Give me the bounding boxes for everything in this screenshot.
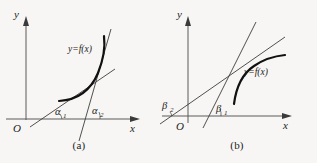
panel-a: y x O y=f(x) α 1 α 2 (a): [0, 0, 158, 163]
tangent-line-beta2: [160, 37, 285, 124]
function-label-b: y=f(x): [243, 67, 268, 78]
origin-label-a: O: [13, 122, 21, 134]
function-curve-b: [234, 55, 285, 104]
angle-label-beta2: β: [161, 100, 168, 111]
angle-label-alpha1: α: [55, 106, 61, 117]
y-axis-label-b: y: [176, 8, 182, 20]
y-axis-label-a: y: [13, 8, 19, 20]
panel-b-caption: (b): [158, 139, 316, 151]
x-axis-label-a: x: [129, 122, 135, 134]
angle-sub-alpha2: 2: [100, 111, 104, 119]
angle-sub-alpha1: 1: [63, 112, 67, 120]
angle-label-beta1: β: [215, 103, 222, 114]
panel-b: y x O y=f(x) β 1 β 2 (b): [158, 0, 316, 163]
function-label-a: y=f(x): [67, 44, 92, 55]
angle-label-alpha2: α: [92, 105, 98, 116]
angle-sub-beta2: 2: [170, 106, 174, 114]
panel-a-caption: (a): [0, 139, 158, 151]
y-axis-arrowhead-a: [23, 16, 29, 26]
origin-label-b: O: [176, 120, 184, 132]
angle-sub-beta1: 1: [224, 109, 228, 117]
x-axis-label-b: x: [282, 119, 288, 131]
y-axis-arrowhead-b: [185, 16, 191, 26]
figure-container: y x O y=f(x) α 1 α 2 (a): [0, 0, 317, 163]
